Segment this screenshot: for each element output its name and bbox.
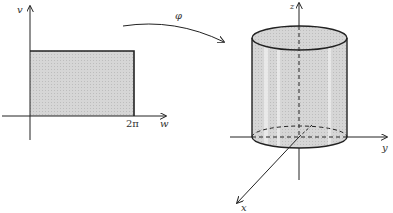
w-axis-label: w [160,118,169,129]
cylinder-highlight [328,48,331,146]
figure: v w 2π φ z y x [0,0,393,213]
curved-arrow [123,24,224,42]
domain-rectangle [30,51,134,116]
phi-label: φ [175,10,182,21]
tick-label-2pi: 2π [126,118,139,129]
x-axis-label: x [241,202,247,213]
image-panel: z y x [230,2,388,213]
map-arrow: φ [123,10,224,42]
y-axis-label: y [381,142,388,153]
cylinder-highlight [277,49,280,148]
cylinder-highlight [264,46,268,146]
v-axis-label: v [17,4,23,15]
x-axis [237,137,299,203]
z-axis-label: z [289,2,295,11]
